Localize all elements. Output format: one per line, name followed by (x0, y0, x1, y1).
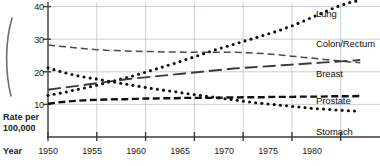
xtick-label-1980: 1980 (295, 146, 329, 156)
y-axis-title-line2: 100,000 (3, 123, 36, 134)
series-lung (46, 0, 357, 97)
series-label-stomach: Stomach (316, 126, 353, 137)
series-stomach (46, 66, 356, 112)
ytick-label-10: 10 (22, 100, 44, 110)
series-label-colon-rectum: Colon/Rectum (316, 38, 375, 49)
xtick-label-1950: 1950 (31, 146, 65, 156)
ytick-label-20: 20 (22, 68, 44, 78)
series-label-breast: Breast (316, 68, 343, 79)
cancer-mortality-rate-chart: 40 30 20 10 1950 1955 1960 1965 1970 197… (0, 0, 380, 166)
xtick-label-1965: 1965 (163, 146, 197, 156)
series-label-prostate: Prostate (316, 95, 351, 106)
series-prostate (48, 96, 360, 104)
xtick-label-1960: 1960 (119, 146, 153, 156)
series-breast (48, 60, 360, 90)
xtick-label-1975: 1975 (251, 146, 285, 156)
y-axis-title-line1: Rate per (3, 112, 39, 123)
xtick-label-1955: 1955 (75, 146, 109, 156)
series-label-lung: Lung (316, 8, 337, 19)
ytick-label-40: 40 (22, 2, 44, 12)
x-axis-title: Year (3, 146, 22, 156)
ytick-label-30: 30 (22, 35, 44, 45)
scan-bracket-artifact (7, 18, 12, 96)
chart-plot-area (0, 0, 380, 166)
xtick-label-1970: 1970 (207, 146, 241, 156)
